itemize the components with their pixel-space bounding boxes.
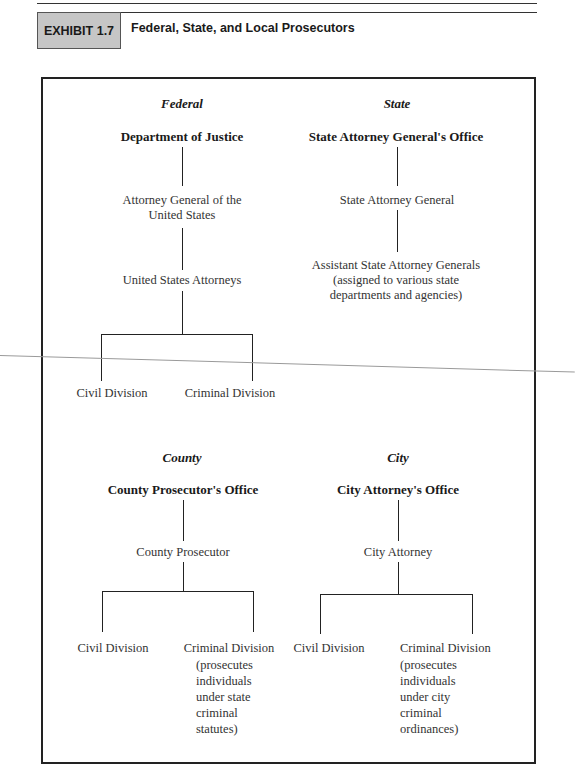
state-assistant-attorneys: Assistant State Attorney Generals (assig… — [312, 258, 480, 303]
county-prosecutor: County Prosecutor — [136, 545, 229, 560]
county-branch-right — [253, 591, 254, 632]
county-note-line: statutes) — [196, 721, 253, 737]
state-assistant-line1: Assistant State Attorney Generals — [312, 258, 480, 273]
city-criminal-notes: (prosecutes individuals under city crimi… — [400, 657, 458, 737]
federal-connector-3 — [182, 291, 183, 334]
county-criminal-division: Criminal Division — [184, 641, 275, 656]
county-connector-1 — [183, 500, 184, 541]
city-civil-division: Civil Division — [293, 641, 364, 656]
city-branch-left — [320, 594, 321, 634]
state-office: State Attorney General's Office — [309, 129, 483, 144]
federal-us-attorneys: United States Attorneys — [123, 273, 242, 288]
exhibit-title: Federal, State, and Local Prosecutors — [131, 21, 355, 35]
city-note-line: (prosecutes — [400, 657, 458, 673]
exhibit-label-text: EXHIBIT 1.7 — [44, 24, 114, 38]
state-connector-1 — [397, 147, 398, 186]
federal-category: Federal — [161, 96, 203, 111]
state-connector-2 — [397, 210, 398, 252]
state-category: State — [384, 96, 411, 111]
federal-attorney-general-line1: Attorney General of the — [122, 193, 241, 208]
county-note-line: (prosecutes — [196, 657, 253, 673]
federal-connector-2 — [182, 228, 183, 270]
city-connector-2 — [398, 562, 399, 594]
city-category: City — [387, 450, 409, 465]
state-assistant-line2: (assigned to various state — [312, 273, 480, 288]
top-rule — [37, 3, 537, 4]
federal-civil-division: Civil Division — [76, 386, 147, 401]
county-connector-2 — [183, 562, 184, 591]
federal-attorney-general-line2: United States — [122, 208, 241, 223]
city-attorney: City Attorney — [364, 545, 432, 560]
state-assistant-line3: departments and agencies) — [312, 288, 480, 303]
city-branch-right — [472, 594, 473, 634]
exhibit-label: EXHIBIT 1.7 — [37, 12, 121, 49]
federal-connector-1 — [182, 147, 183, 186]
federal-office: Department of Justice — [121, 129, 244, 144]
city-criminal-division: Criminal Division — [400, 641, 491, 656]
city-note-line: individuals — [400, 673, 458, 689]
county-office: County Prosecutor's Office — [108, 482, 259, 497]
city-branch-bar — [320, 594, 473, 595]
city-note-line: under city — [400, 689, 458, 705]
county-note-line: under state — [196, 689, 253, 705]
city-note-line: ordinances) — [400, 721, 458, 737]
city-connector-1 — [398, 500, 399, 541]
county-category: County — [162, 450, 201, 465]
county-branch-bar — [102, 591, 254, 592]
county-criminal-notes: (prosecutes individuals under state crim… — [196, 657, 253, 737]
city-office: City Attorney's Office — [337, 482, 459, 497]
federal-branch-right — [252, 334, 253, 381]
state-attorney-general: State Attorney General — [340, 193, 455, 208]
county-note-line: individuals — [196, 673, 253, 689]
city-note-line: criminal — [400, 705, 458, 721]
county-branch-left — [102, 591, 103, 632]
federal-criminal-division: Criminal Division — [185, 386, 276, 401]
county-civil-division: Civil Division — [77, 641, 148, 656]
diagram-frame — [41, 77, 536, 764]
county-note-line: criminal — [196, 705, 253, 721]
federal-branch-bar — [101, 334, 253, 335]
federal-attorney-general: Attorney General of the United States — [122, 193, 241, 223]
